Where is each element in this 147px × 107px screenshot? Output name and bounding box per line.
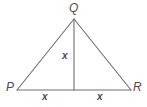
vertex-label-p: P bbox=[6, 81, 14, 93]
vertex-label-q: Q bbox=[69, 2, 78, 14]
altitude-length-label: x bbox=[62, 51, 68, 61]
base-right-length-label: x bbox=[97, 92, 103, 102]
triangle-diagram: Q P R x x x bbox=[0, 0, 147, 107]
vertex-label-r: R bbox=[133, 81, 142, 93]
triangle-side-qr bbox=[74, 19, 131, 90]
base-left-length-label: x bbox=[42, 92, 48, 102]
triangle-svg bbox=[0, 0, 147, 107]
